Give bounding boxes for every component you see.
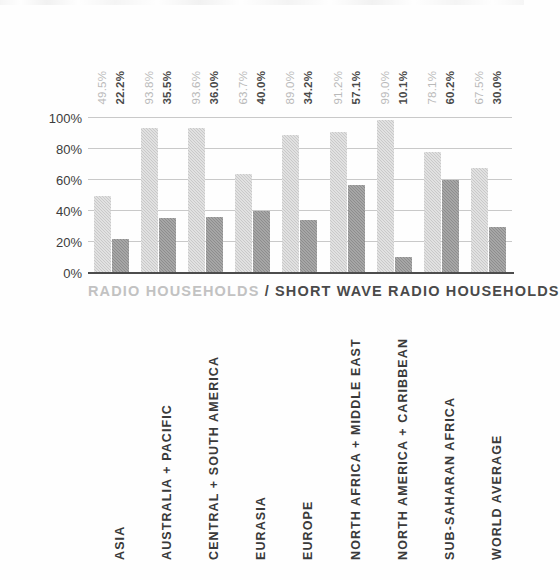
legend-separator: / (265, 283, 270, 299)
legend-label-short-wave-radio-households: SHORT WAVE RADIO HOUSEHOLDS (275, 283, 560, 299)
category-label-group: NORTH AMERICA + CARIBBEAN (371, 308, 418, 570)
value-label-group: 67.5%30.0% (465, 0, 512, 104)
bar (300, 220, 317, 273)
value-label: 67.5% (473, 70, 485, 104)
bar (282, 135, 299, 273)
value-label-group: 99.0%10.1% (371, 0, 418, 104)
category-label-group: ASIA (88, 308, 135, 570)
y-tick-80pct: 80% (0, 143, 82, 156)
bar-group (418, 118, 465, 273)
category-label: NORTH AFRICA + MIDDLE EAST (350, 338, 363, 560)
value-label-group: 93.8%35.5% (135, 0, 182, 104)
bar (489, 227, 506, 274)
category-label-group: EURASIA (229, 308, 276, 570)
value-label: 40.0% (256, 70, 268, 104)
category-label-group: WORLD AVERAGE (465, 308, 512, 570)
category-label-group: EUROPE (276, 308, 323, 570)
y-tick-100pct: 100% (0, 112, 82, 125)
bar (253, 211, 270, 273)
category-label: WORLD AVERAGE (491, 435, 504, 560)
value-label: 10.1% (397, 70, 409, 104)
category-label: AUSTRALIA + PACIFIC (161, 404, 174, 560)
category-label-group: CENTRAL + SOUTH AMERICA (182, 308, 229, 570)
value-label: 78.1% (426, 70, 438, 104)
category-label-layer: ASIAAUSTRALIA + PACIFICCENTRAL + SOUTH A… (88, 308, 512, 570)
bar (377, 120, 394, 273)
bar (188, 128, 205, 273)
category-label-group: SUB-SAHARAN AFRICA (418, 308, 465, 570)
y-tick-60pct: 60% (0, 174, 82, 187)
category-label: EUROPE (302, 501, 315, 560)
y-tick-40pct: 40% (0, 205, 82, 218)
bar (424, 152, 441, 273)
value-label-group: 89.0%34.2% (276, 0, 323, 104)
value-label-group: 78.1%60.2% (418, 0, 465, 104)
value-label: 35.5% (162, 70, 174, 104)
category-label: ASIA (114, 526, 127, 560)
value-label-group: 63.7%40.0% (229, 0, 276, 104)
bar (159, 218, 176, 273)
bar-group (276, 118, 323, 273)
value-label-group: 93.6%36.0% (182, 0, 229, 104)
value-label: 93.6% (191, 70, 203, 104)
bar (206, 217, 223, 273)
value-label: 60.2% (444, 70, 456, 104)
value-label: 49.5% (97, 70, 109, 104)
category-label-group: AUSTRALIA + PACIFIC (135, 308, 182, 570)
category-label: CENTRAL + SOUTH AMERICA (208, 356, 221, 560)
bar (330, 132, 347, 273)
bar-group (88, 118, 135, 273)
x-axis-baseline (88, 272, 514, 274)
category-label: NORTH AMERICA + CARIBBEAN (397, 338, 410, 560)
bar-group (465, 118, 512, 273)
bar (141, 128, 158, 273)
category-label: EURASIA (255, 496, 268, 560)
bar-group (135, 118, 182, 273)
y-tick-0pct: 0% (0, 267, 82, 280)
value-label: 36.0% (209, 70, 221, 104)
y-axis-tick-labels: 0%20%40%60%80%100% (0, 108, 82, 288)
value-label: 91.2% (332, 70, 344, 104)
value-label: 34.2% (303, 70, 315, 104)
category-label-group: NORTH AFRICA + MIDDLE EAST (324, 308, 371, 570)
legend-label-radio-households: RADIO HOUSEHOLDS (88, 283, 259, 299)
bar-group (229, 118, 276, 273)
value-label: 63.7% (238, 70, 250, 104)
value-label: 30.0% (491, 70, 503, 104)
value-label-layer: 49.5%22.2%93.8%35.5%93.6%36.0%63.7%40.0%… (88, 0, 512, 104)
category-label: SUB-SAHARAN AFRICA (444, 397, 457, 560)
value-label: 22.2% (115, 70, 127, 104)
plot-area (88, 118, 512, 273)
bar-layer (88, 118, 512, 273)
bar-group (371, 118, 418, 273)
value-label: 89.0% (285, 70, 297, 104)
bar (395, 257, 412, 273)
bar (235, 174, 252, 273)
value-label-group: 49.5%22.2% (88, 0, 135, 104)
bar (94, 196, 111, 273)
bar (442, 180, 459, 273)
legend: RADIO HOUSEHOLDS / SHORT WAVE RADIO HOUS… (88, 284, 560, 299)
bar (112, 239, 129, 273)
value-label: 93.8% (144, 70, 156, 104)
value-label-group: 91.2%57.1% (324, 0, 371, 104)
bar (348, 185, 365, 274)
bar-group (182, 118, 229, 273)
value-label: 57.1% (350, 70, 362, 104)
bar-group (324, 118, 371, 273)
value-label: 99.0% (379, 70, 391, 104)
bar (471, 168, 488, 273)
y-tick-20pct: 20% (0, 236, 82, 249)
